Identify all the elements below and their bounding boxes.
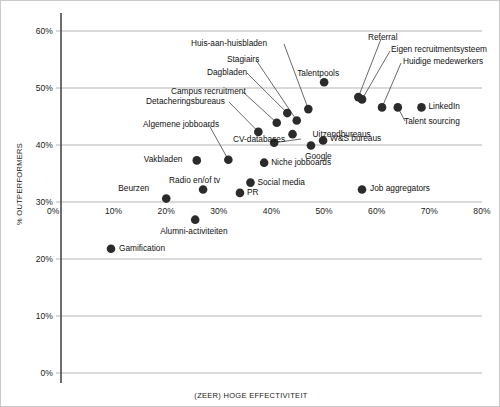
y-tick-label: 0%: [7, 368, 53, 378]
data-point: [272, 118, 281, 127]
y-tick-label: 40%: [7, 140, 53, 150]
data-point: [107, 244, 116, 253]
data-point: [358, 95, 367, 104]
data-point: [417, 103, 426, 112]
point-label: Beurzen: [118, 183, 149, 193]
x-tick-label: 70%: [409, 206, 449, 216]
data-point: [320, 78, 329, 87]
data-point: [246, 178, 255, 187]
x-tick-label: 30%: [199, 206, 239, 216]
data-point: [199, 185, 208, 194]
y-tick-label: 10%: [7, 311, 53, 321]
y-tick-label: 60%: [7, 26, 53, 36]
data-point: [304, 105, 313, 114]
leader-line: [243, 92, 277, 123]
y-tick-label: 20%: [7, 254, 53, 264]
data-point: [292, 116, 301, 125]
point-label: PR: [247, 187, 259, 197]
data-point: [358, 185, 367, 194]
point-label: Gamification: [119, 243, 165, 253]
data-point: [236, 189, 245, 198]
x-tick-label: 40%: [252, 206, 292, 216]
data-point: [192, 156, 201, 165]
x-tick-label: 20%: [146, 206, 186, 216]
point-label: Google: [305, 151, 332, 161]
leader-line: [209, 125, 228, 160]
point-label: Radio en/of tv: [169, 175, 220, 185]
y-tick-label: 50%: [7, 83, 53, 93]
plot-area: 0%10%20%30%40%50%60% 0%10%20%30%40%50%60…: [1, 1, 500, 407]
x-axis-title: (ZEER) HOGE EFFECTIVITEIT: [1, 391, 500, 400]
point-label: Dagbladen: [207, 67, 247, 77]
leader-line: [229, 102, 258, 132]
point-label: W&S bureaus: [330, 133, 381, 143]
data-point: [162, 194, 171, 203]
data-point: [260, 158, 269, 167]
point-label: LinkedIn: [428, 101, 459, 111]
data-point: [394, 103, 403, 112]
point-label: Referral: [368, 32, 398, 42]
point-label: Eigen recruitmentsysteem: [391, 44, 487, 54]
point-label: Huis-aan-huisbladen: [191, 38, 267, 48]
point-label: Social media: [257, 177, 305, 187]
point-label: Huidige medewerkers: [403, 56, 483, 66]
data-point: [191, 215, 200, 224]
y-axis-title: % OUTPERFORMERS: [15, 143, 24, 225]
data-point: [378, 103, 387, 112]
point-label: Campus recruitment: [171, 86, 246, 96]
point-label: Alumni-activiteiten: [160, 226, 227, 236]
point-label: Algemene jobboards: [143, 119, 219, 129]
point-label: Talentpools: [297, 68, 339, 78]
leader-line: [247, 73, 287, 113]
point-label: CV-databases: [233, 134, 285, 144]
x-tick-label: 80%: [462, 206, 500, 216]
x-tick-label: 10%: [94, 206, 134, 216]
data-point: [307, 141, 316, 150]
leader-line: [382, 63, 401, 107]
scatter-chart: 0%10%20%30%40%50%60% 0%10%20%30%40%50%60…: [0, 0, 500, 407]
point-label: Vakbladen: [144, 154, 183, 164]
x-tick-label: 0%: [47, 206, 87, 216]
point-label: Detacheringsbureaus: [146, 96, 225, 106]
x-tick-label: 50%: [304, 206, 344, 216]
x-tick-label: 60%: [357, 206, 397, 216]
point-label: Talent sourcing: [404, 116, 460, 126]
data-point: [288, 130, 297, 139]
data-point: [283, 109, 292, 118]
data-point: [224, 156, 233, 165]
point-label: Stagiairs: [227, 54, 259, 64]
point-label: Job aggregators: [370, 183, 430, 193]
leader-line: [362, 51, 390, 99]
